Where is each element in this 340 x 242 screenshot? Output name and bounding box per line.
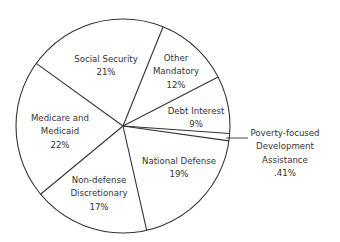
slice-label: Poverty-focusedDevelopmentAssistance.41%	[250, 128, 319, 178]
pie-chart: OtherMandatory12%Social Security21%Medic…	[0, 0, 340, 242]
